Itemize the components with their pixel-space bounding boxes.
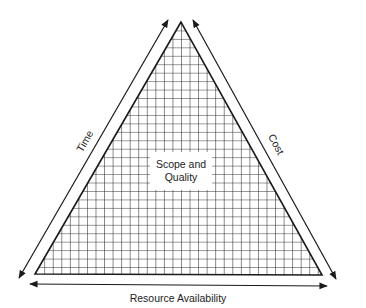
center-label-line1: Scope and [156,158,206,170]
resource-availability-label: Resource Availability [130,292,227,304]
cost-label: Cost [266,132,287,157]
resource-arrow [30,284,327,286]
triangle-diagram: Scope and Quality Time Cost Resource Ava… [0,0,366,308]
center-label-line2: Quality [165,171,198,183]
diagram-canvas: Scope and Quality Time Cost Resource Ava… [0,0,366,308]
